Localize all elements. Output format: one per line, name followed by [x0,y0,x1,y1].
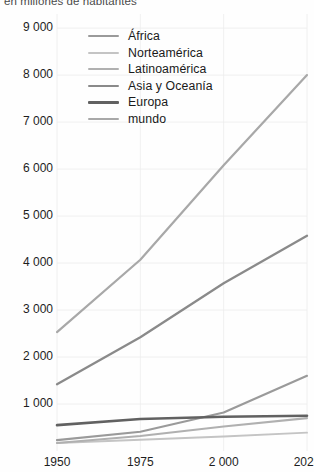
y-axis-tick-label: 7 000 [1,114,53,128]
series-line [57,416,307,425]
chart-legend: ÁfricaNorteaméricaLatinoaméricaAsia y Oc… [88,28,213,127]
x-axis-tick-label: 2025 [277,455,314,469]
x-axis: 195019752 0002025 [0,455,314,472]
legend-item-label: Europa [128,94,168,111]
y-axis-tick-label: 5 000 [1,208,53,222]
y-axis-tick-label: 1 000 [1,396,53,410]
x-axis-tick-label: 1950 [27,455,87,469]
y-axis-tick-label: 4 000 [1,255,53,269]
legend-item[interactable]: Asia y Oceanía [88,78,213,95]
legend-item-label: Asia y Oceanía [128,78,213,95]
legend-item[interactable]: mundo [88,111,213,128]
legend-line-swatch-icon [88,118,119,120]
y-axis-tick-label: 2 000 [1,349,53,363]
legend-line-swatch-icon [88,101,119,104]
legend-item[interactable]: África [88,28,213,45]
y-axis: 9 0008 0007 0006 0005 0004 0003 0002 000… [0,0,53,472]
x-axis-tick-label: 1975 [110,455,170,469]
y-axis-tick-label: 6 000 [1,161,53,175]
series-lines [57,75,307,443]
y-axis-tick-label: 3 000 [1,302,53,316]
x-axis-tick-label: 2 000 [194,455,254,469]
legend-line-swatch-icon [88,85,119,87]
population-line-chart: en millones de habitantes 9 0008 0007 00… [0,0,314,472]
legend-item-label: África [128,28,160,45]
legend-item-label: mundo [128,111,166,128]
legend-item-label: Norteamérica [128,45,203,62]
legend-item[interactable]: Latinoamérica [88,61,213,78]
series-line [57,433,307,443]
legend-line-swatch-icon [88,52,119,54]
y-axis-tick-label: 8 000 [1,67,53,81]
legend-item-label: Latinoamérica [128,61,207,78]
legend-line-swatch-icon [88,35,119,37]
y-axis-tick-label: 9 000 [1,20,53,34]
legend-item[interactable]: Norteamérica [88,45,213,62]
legend-line-swatch-icon [88,68,119,70]
legend-item[interactable]: Europa [88,94,213,111]
